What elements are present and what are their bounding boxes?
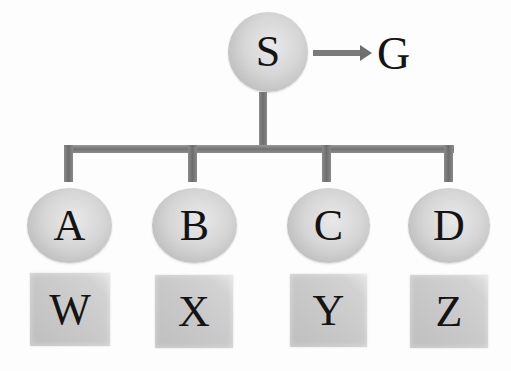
box-w: W bbox=[30, 273, 110, 346]
box-y: Y bbox=[290, 274, 367, 347]
node-label: B bbox=[180, 204, 209, 248]
connector-drop-c bbox=[322, 145, 331, 182]
node-label: S bbox=[256, 30, 280, 74]
node-a: A bbox=[27, 188, 112, 263]
box-label: X bbox=[178, 290, 210, 334]
node-d: D bbox=[408, 188, 490, 263]
node-root-s: S bbox=[228, 12, 308, 92]
arrow-right-icon bbox=[360, 45, 372, 61]
node-b: B bbox=[152, 188, 237, 263]
connector-drop-b bbox=[188, 145, 197, 182]
connector-drop-d bbox=[444, 145, 453, 182]
diagram-canvas: S G A B C D W X Y Z bbox=[0, 0, 511, 371]
connector-stem bbox=[259, 92, 267, 150]
arrow-shaft bbox=[313, 50, 361, 56]
box-label: Z bbox=[436, 290, 463, 334]
box-label: W bbox=[49, 288, 91, 332]
box-x: X bbox=[155, 275, 233, 348]
node-label: C bbox=[314, 204, 343, 248]
connector-drop-a bbox=[64, 145, 73, 182]
node-label: D bbox=[433, 204, 465, 248]
connector-horizontal bbox=[64, 145, 454, 153]
node-label: A bbox=[54, 204, 86, 248]
box-z: Z bbox=[410, 275, 488, 348]
goal-label-g: G bbox=[377, 31, 410, 77]
node-c: C bbox=[287, 188, 370, 263]
box-label: Y bbox=[313, 289, 345, 333]
